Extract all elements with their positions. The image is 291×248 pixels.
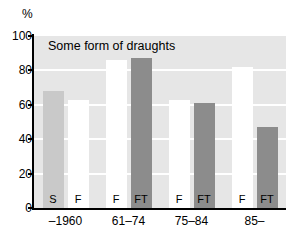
x-axis-group-label: –1960 (34, 214, 97, 228)
bar-series-label: F (68, 194, 89, 205)
bar-6174-ft (131, 58, 152, 208)
plot-area (34, 36, 286, 208)
bar-series-label: S (43, 194, 64, 205)
x-axis-group-label: 85– (223, 214, 286, 228)
bar-1960-s (43, 91, 64, 208)
bar-series-label: FT (257, 194, 278, 205)
y-axis-tick-mark (28, 35, 33, 37)
bar-7584-f (169, 100, 190, 208)
y-axis-tick-mark (28, 173, 33, 175)
bar-85-f (232, 67, 253, 208)
bar-6174-f (106, 60, 127, 208)
x-axis-group-label: 61–74 (97, 214, 160, 228)
bar-series-label: F (106, 194, 127, 205)
bar-series-label: FT (194, 194, 215, 205)
bar-1960-f (68, 100, 89, 208)
bar-chart: % 020406080100 Some form of draughts SF–… (0, 0, 291, 248)
chart-title: Some form of draughts (48, 39, 175, 53)
x-axis-line (32, 208, 286, 210)
y-axis-tick-mark (28, 138, 33, 140)
bar-series-label: FT (131, 194, 152, 205)
y-axis-tick-mark (28, 104, 33, 106)
x-axis-group-label: 75–84 (160, 214, 223, 228)
bar-series-label: F (169, 194, 190, 205)
y-axis-tick-mark (28, 207, 33, 209)
y-axis-ticks: 020406080100 (0, 0, 32, 248)
y-axis-tick-mark (28, 69, 33, 71)
y-axis-line (32, 34, 34, 210)
bar-series-label: F (232, 194, 253, 205)
